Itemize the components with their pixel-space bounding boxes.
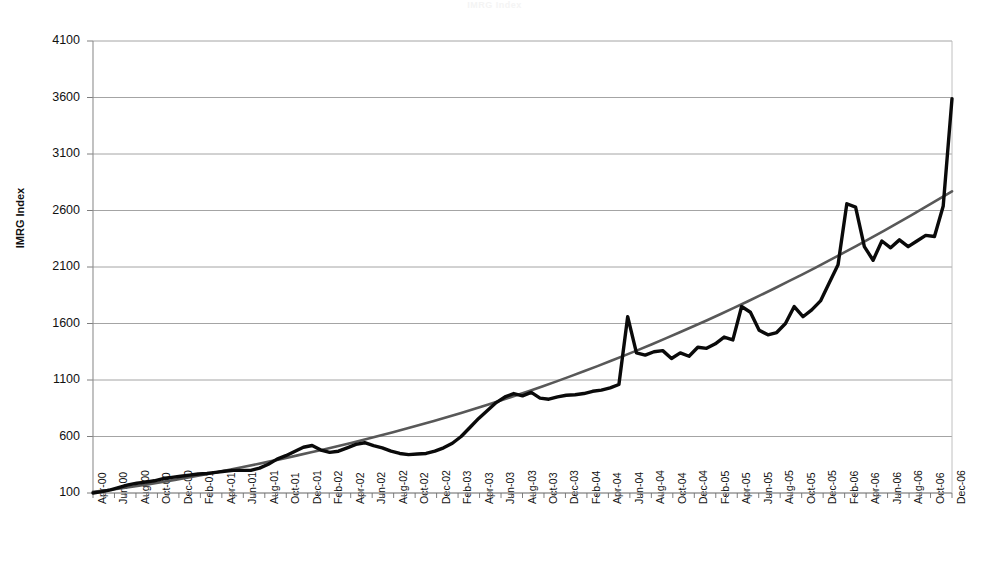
chart-container: IMRG Index IMRG Index 100600110016002100… <box>0 0 989 561</box>
plot-area <box>0 0 989 561</box>
x-axis-ticks <box>93 493 952 498</box>
grid-lines <box>87 41 952 493</box>
trend-line-series <box>93 191 952 492</box>
imrg-index-series <box>93 99 952 493</box>
